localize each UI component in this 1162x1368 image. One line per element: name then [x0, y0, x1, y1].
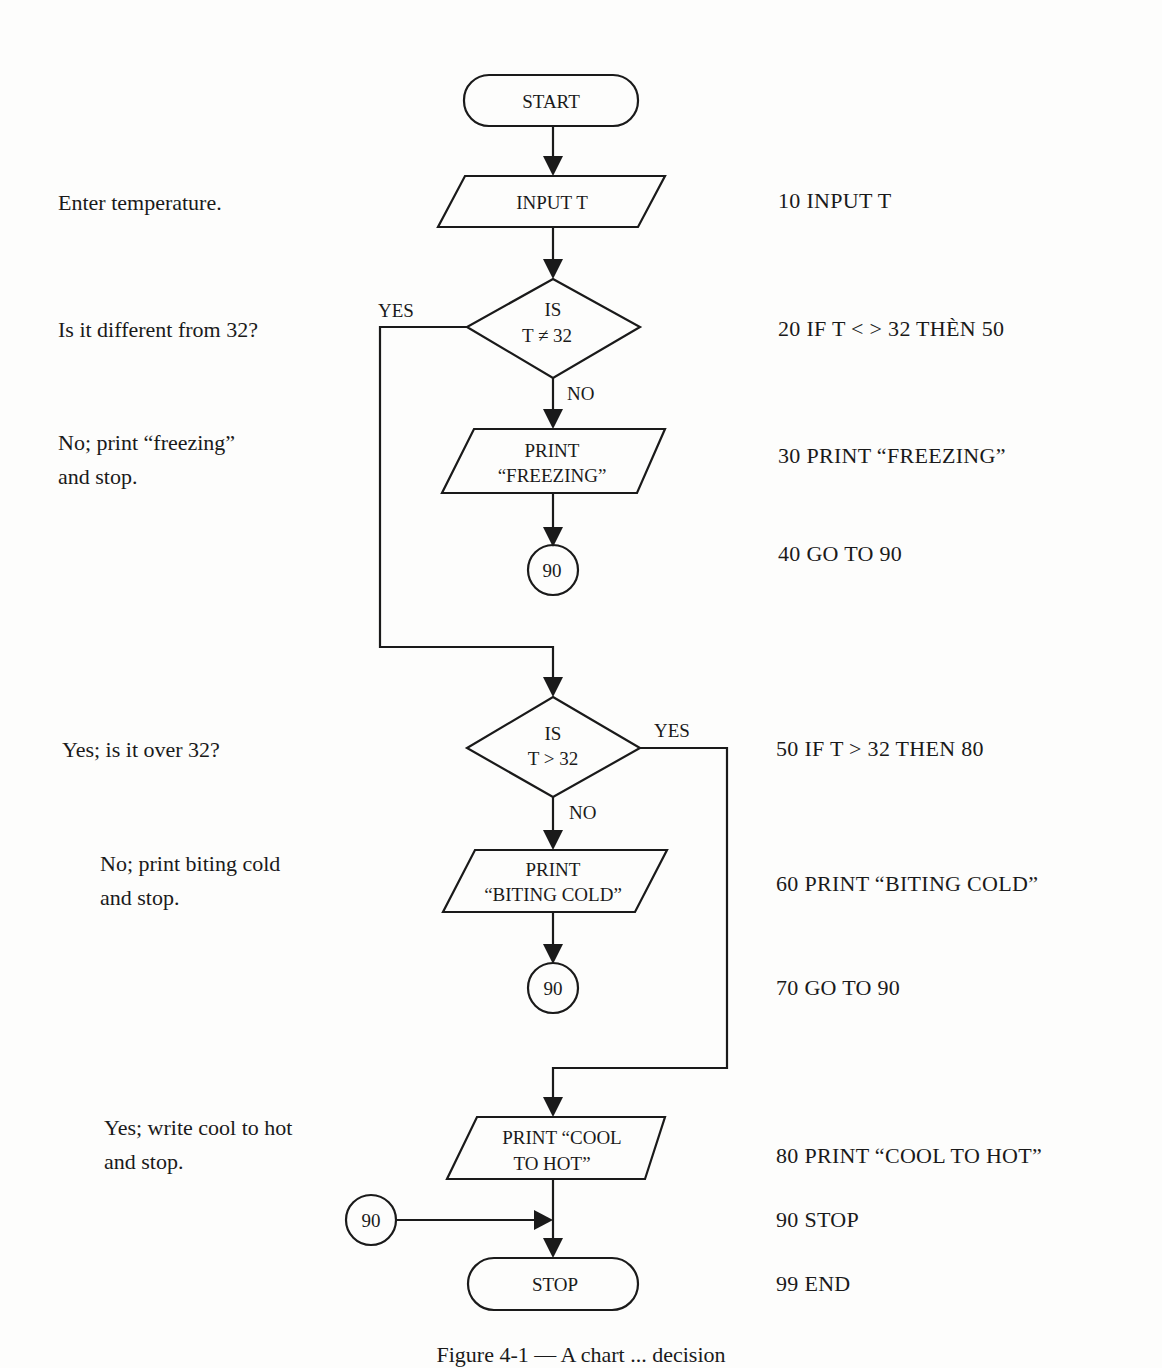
yes-branch-line — [380, 327, 553, 680]
stop-label: STOP — [532, 1274, 578, 1295]
program-line: 99 END — [776, 1271, 851, 1297]
print-cool-line1: PRINT “COOL — [502, 1127, 621, 1148]
decision1-line1: IS — [545, 299, 562, 320]
connector1-label: 90 — [543, 560, 562, 581]
program-line: 50 IF T > 32 THEN 80 — [776, 736, 984, 762]
note-different-from-32: Is it different from 32? — [58, 313, 258, 347]
figure-caption: Figure 4-1 — A chart ... decision — [0, 1342, 1162, 1368]
program-line: 70 GO TO 90 — [776, 975, 900, 1001]
program-line: 60 PRINT “BITING COLD” — [776, 871, 1038, 897]
connector3-label: 90 — [362, 1210, 381, 1231]
program-line: 40 GO TO 90 — [778, 541, 902, 567]
decision2-line1: IS — [545, 723, 562, 744]
print-freezing-line1: PRINT — [525, 440, 580, 461]
program-line: 80 PRINT “COOL TO HOT” — [776, 1143, 1042, 1169]
d2-yes-label: YES — [654, 720, 690, 741]
program-line: 20 IF T < > 32 THÈN 50 — [778, 316, 1004, 342]
print-biting-line1: PRINT — [526, 859, 581, 880]
note-cool-to-hot: Yes; write cool to hot and stop. — [104, 1111, 292, 1179]
program-line: 30 PRINT “FREEZING” — [778, 443, 1006, 469]
print-cool-line2: TO HOT” — [513, 1153, 590, 1174]
program-line: 90 STOP — [776, 1207, 859, 1233]
note-over-32: Yes; is it over 32? — [62, 733, 220, 767]
d2-no-label: NO — [569, 802, 596, 823]
note-print-freezing: No; print “freezing” and stop. — [58, 426, 235, 494]
print-freezing-line2: “FREEZING” — [498, 465, 607, 486]
d1-yes-label: YES — [378, 300, 414, 321]
note-enter-temperature: Enter temperature. — [58, 186, 222, 220]
decision-over-32 — [467, 697, 640, 797]
print-biting-line2: “BITING COLD” — [484, 884, 622, 905]
program-line: 10 INPUT T — [778, 188, 891, 214]
d1-no-label: NO — [567, 383, 594, 404]
decision2-line2: T > 32 — [528, 748, 578, 769]
note-print-biting-cold: No; print biting cold and stop. — [100, 847, 280, 915]
yes-branch-line-2 — [553, 748, 727, 1100]
start-label: START — [522, 91, 580, 112]
input-label: INPUT T — [516, 192, 588, 213]
decision1-line2: T ≠ 32 — [522, 325, 572, 346]
connector2-label: 90 — [544, 978, 563, 999]
